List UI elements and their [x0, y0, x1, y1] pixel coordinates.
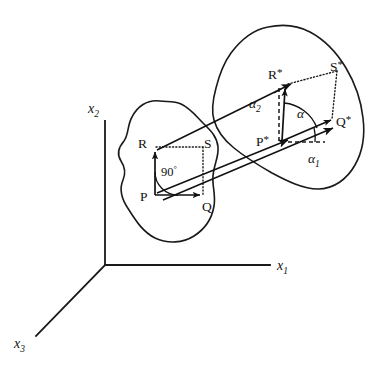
point-label-Q: Q [202, 199, 212, 214]
point-label-Qstar: Q* [336, 113, 351, 129]
dotted-Sstar-to-Qstar [332, 71, 337, 119]
coordinate-axes [36, 121, 270, 336]
vector-Pstar-Qstar-line [282, 120, 331, 141]
angle-label-alpha2: α2 [249, 96, 261, 114]
angle-label-alpha: α [297, 106, 305, 121]
angle-alpha1-arc [314, 128, 315, 142]
point-label-Sstar: S* [330, 58, 343, 74]
point-label-P: P [140, 189, 148, 204]
axis-x3-line [36, 265, 105, 336]
axis-label-x1: x1 [276, 258, 288, 276]
vector-Pstar-Rstar-line [282, 89, 285, 141]
vector-Pstar-Qstar [282, 120, 331, 141]
figure-root: x2 x1 x3 R S P Q 90° R* S* P* Q* [0, 0, 388, 367]
point-label-S: S [204, 136, 212, 151]
vector-Pstar-Rstar [282, 89, 285, 141]
deformation-diagram: x2 x1 x3 R S P Q 90° R* S* P* Q* [0, 0, 388, 367]
transport-arrow-R-to-Rstar [157, 84, 291, 150]
axis-label-x2: x2 [87, 101, 99, 119]
point-label-Rstar: R* [268, 66, 283, 82]
right-angle-label: 90° [161, 164, 177, 179]
deformed-body-outline [213, 25, 364, 189]
point-label-Pstar: P* [256, 133, 269, 149]
point-label-R: R [138, 136, 147, 151]
transport-arrow-R-to-Rstar-line [157, 84, 291, 150]
angle-label-alpha1: α1 [308, 151, 320, 169]
angle-alpha2-tick [274, 89, 281, 93]
axis-label-x3: x3 [13, 336, 25, 354]
